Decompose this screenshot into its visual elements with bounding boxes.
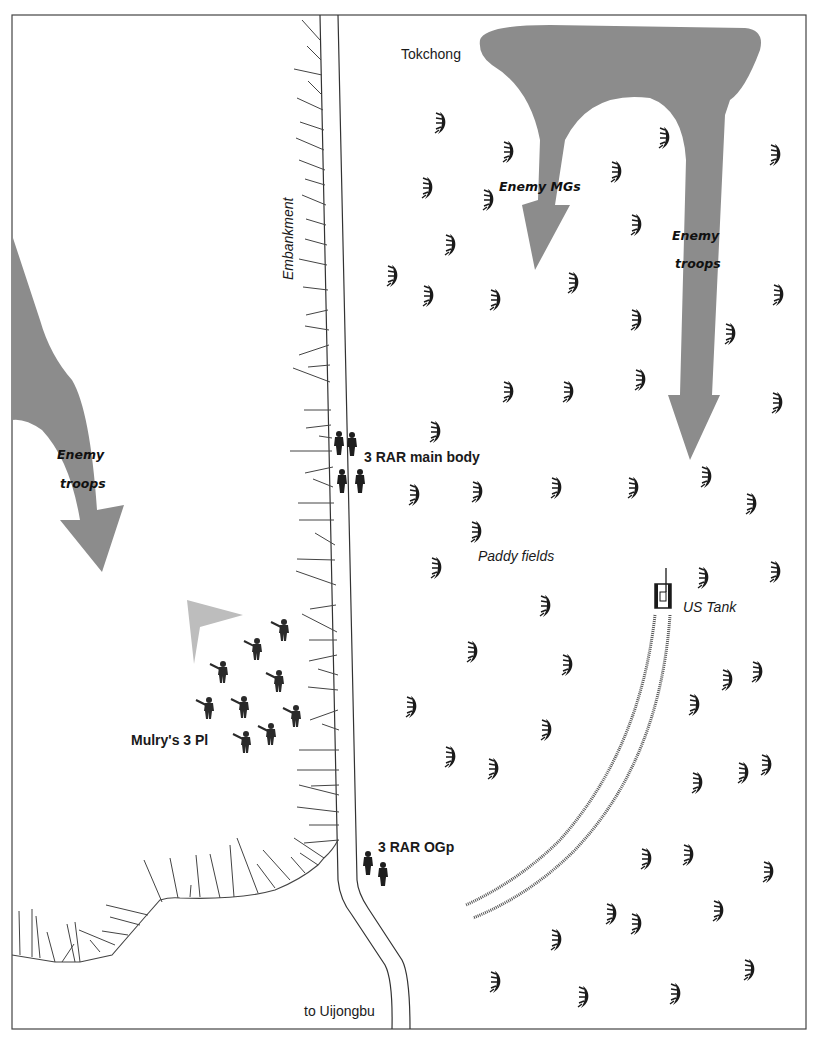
label-to-uijongbu: to Uijongbu (304, 1004, 375, 1018)
label-us-tank: US Tank (683, 600, 736, 614)
friendly-arrow (187, 600, 243, 664)
ogp-soldiers (363, 851, 388, 886)
main-body-soldiers (334, 431, 365, 493)
enemy-arrow-left (12, 235, 124, 572)
battle-map (0, 0, 817, 1040)
label-enemy-troops-left-line2: troops (60, 478, 106, 491)
hill-contour (12, 840, 338, 962)
label-enemy-troops-right-line2: troops (675, 258, 721, 271)
label-enemy-mgs: Enemy MGs (499, 181, 581, 194)
label-enemy-troops-left-line1: Enemy (57, 449, 104, 462)
paddy-field-icons (387, 112, 783, 1008)
label-embankment: Embankment (281, 198, 295, 280)
road (320, 15, 410, 1029)
mulry-platoon-soldiers (196, 619, 301, 753)
hill-hachures (19, 838, 324, 962)
label-tokchong: Tokchong (401, 47, 461, 61)
label-mulry-3-pl: Mulry's 3 Pl (131, 733, 208, 747)
label-3rar-ogp: 3 RAR OGp (378, 840, 454, 854)
us-tank-icon (655, 568, 671, 608)
label-paddy-fields: Paddy fields (478, 549, 554, 563)
label-enemy-troops-right-line1: Enemy (672, 230, 719, 243)
label-3rar-main-body: 3 RAR main body (364, 450, 480, 464)
